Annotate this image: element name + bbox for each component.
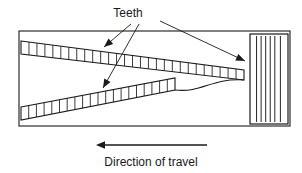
teeth-label: Teeth [113, 6, 142, 20]
diagram-canvas: Teeth Direction of travel [0, 0, 302, 173]
direction-of-travel-caption: Direction of travel [104, 155, 197, 169]
diagram-root: Teeth Direction of travel [0, 0, 302, 173]
ribbed-block-outline [250, 34, 288, 124]
ribbed-block [250, 34, 288, 124]
